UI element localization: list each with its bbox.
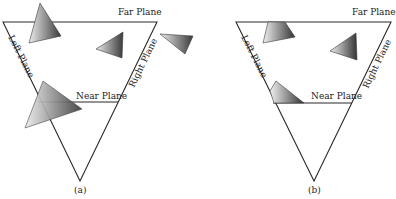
panel-b: Far Plane Near Plane Left Plane Right Pl… [236, 7, 396, 195]
triangle-crossing-far-plane [29, 3, 61, 43]
right-plane-label-b: Right Plane [361, 38, 393, 90]
triangle-inside [96, 32, 123, 58]
panel-a: Far Plane Near Plane Left Plane Right Pl… [3, 3, 193, 195]
far-plane-label-a: Far Plane [118, 7, 162, 17]
right-plane-label-a: Right Plane [127, 37, 159, 89]
far-plane-label-b: Far Plane [352, 7, 396, 17]
triangle-crossing-near-left [25, 81, 82, 128]
frustum-clipping-diagram: Far Plane Near Plane Left Plane Right Pl… [0, 0, 396, 199]
caption-a: (a) [74, 185, 86, 195]
triangle-outside-right [160, 34, 193, 54]
caption-b: (b) [308, 185, 321, 195]
triangle-inside-b [330, 33, 357, 60]
near-plane-label-a: Near Plane [76, 91, 127, 101]
frustum-outline-b [236, 22, 391, 181]
near-plane-label-b: Near Plane [311, 91, 362, 101]
clipped-triangle-far [263, 22, 295, 43]
clipped-triangle-near [270, 81, 304, 103]
